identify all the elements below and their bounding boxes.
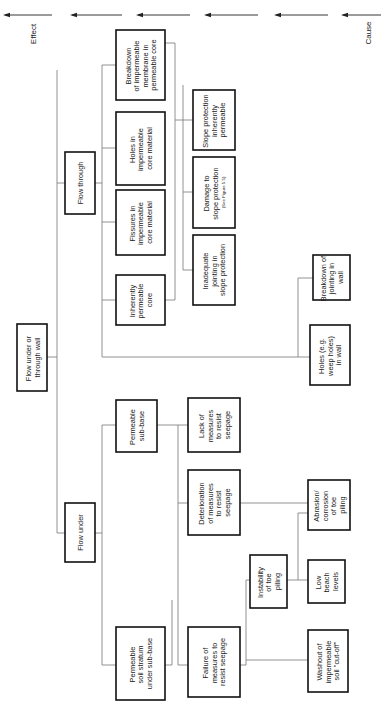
node-breakdown-membrane: Breakdown of impermeable membrane in per… <box>116 30 165 100</box>
svg-text:Washout of impermeable: Washout of impermeable soil "cut-off" <box>315 639 341 684</box>
svg-text:Lack of measures t: Lack of measures to resist seepage <box>197 408 232 443</box>
node-root: Flow under or through wall <box>17 324 47 391</box>
node-abrasion-toe: Abrasion/ corrosion of toe piling <box>308 480 350 530</box>
svg-text:Fissures in impermeable: Fissures in impermeable core material <box>128 200 154 245</box>
node-permeable-subbase: Permeable sub-base <box>116 400 157 452</box>
node-lack-measures: Lack of measures to resist seepage <box>188 398 240 452</box>
arrow-icon <box>136 13 190 17</box>
node-permeable-soil: Permeable soil stratum under sub-base <box>116 627 165 700</box>
node-inherently-permeable-core: Inherently permeable core <box>116 275 165 325</box>
cause-effect-arrows <box>3 13 381 17</box>
node-breakdown-jointing-wall: Breakdown of jointing in wall <box>313 254 350 301</box>
svg-text:Permeable sub-base: Permeable sub-base <box>128 407 146 445</box>
svg-text:Low beach levels: Low beach levels <box>314 570 340 592</box>
arrow-icon <box>70 13 122 17</box>
node-flow-through: Flow through <box>65 152 95 214</box>
node-low-beach: Low beach levels <box>308 560 345 603</box>
arrow-icon <box>341 13 381 17</box>
arrow-icon <box>274 13 328 17</box>
cause-label: Cause <box>364 21 373 45</box>
node-holes-wall: Holes (e.g. weep holes) in wall <box>310 325 350 385</box>
node-instability-toe: Instability of toe piling <box>250 555 287 608</box>
svg-text:Flow under or through wa: Flow under or through wall <box>24 334 42 381</box>
arrow-icon <box>204 13 258 17</box>
node-failure-measures: Failure of measures to resist seepage <box>188 627 240 697</box>
node-washout: Washout of impermeable soil "cut-off" <box>308 630 348 692</box>
node-slope-permeable: Slope protection inherently permeable <box>193 90 235 150</box>
svg-text:Breakdown of impermeable: Breakdown of impermeable membrane in per… <box>124 39 159 92</box>
svg-text:Flow under: Flow under <box>76 514 85 551</box>
svg-text:Flow through: Flow through <box>76 162 85 205</box>
node-inadequate-jointing: Inadequate jointing in slope protection <box>193 235 235 305</box>
effect-label: Effect <box>29 23 38 44</box>
arrow-icon <box>3 13 52 17</box>
node-fissures-core: Fissures in impermeable core material <box>116 190 165 255</box>
node-holes-core: Holes in impermeable core material <box>116 112 165 185</box>
node-damage-slope: Damage to slope protection (See Figure 5… <box>193 157 235 228</box>
node-flow-under: Flow under <box>65 503 95 562</box>
fault-tree-diagram: Effect Cause <box>0 0 381 723</box>
node-deterioration-measures: Deterioration of measures to resist seep… <box>188 470 240 535</box>
svg-text:Permeable soil stratum: Permeable soil stratum under sub-base <box>128 638 154 689</box>
